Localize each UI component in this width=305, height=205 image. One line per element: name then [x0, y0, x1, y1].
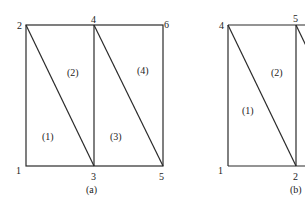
finite-element-mesh-figure: 1 2 3 4 5 6 (1) (2) (3) (4) (a) 1 2 4 5 …	[0, 0, 305, 205]
caption-b: (b)	[290, 184, 302, 196]
node-label-a-3: 3	[91, 171, 96, 182]
mesh-b-diagonal-4-2	[228, 25, 296, 166]
element-label-b-1: (1)	[242, 105, 254, 117]
node-label-b-5: 5	[293, 13, 298, 24]
node-label-a-6: 6	[164, 19, 169, 30]
mesh-b	[228, 25, 305, 166]
mesh-a	[26, 25, 163, 166]
node-label-a-1: 1	[16, 165, 21, 176]
node-label-a-4: 4	[91, 14, 96, 25]
element-label-a-2: (2)	[67, 67, 79, 79]
mesh-a-diagonal-4-5	[94, 25, 163, 166]
element-label-a-1: (1)	[42, 131, 54, 143]
node-label-a-5: 5	[159, 171, 164, 182]
element-label-b-2: (2)	[271, 67, 283, 79]
mesh-b-labels: 1 2 4 5 (1) (2) (b)	[218, 13, 302, 196]
mesh-a-diagonal-2-3	[26, 25, 94, 166]
caption-a: (a)	[86, 184, 97, 196]
element-label-a-4: (4)	[137, 65, 149, 77]
node-label-b-1: 1	[218, 165, 223, 176]
mesh-a-labels: 1 2 3 4 5 6 (1) (2) (3) (4) (a)	[16, 14, 169, 196]
node-label-a-2: 2	[17, 20, 22, 31]
element-label-a-3: (3)	[110, 131, 122, 143]
node-label-b-4: 4	[219, 20, 224, 31]
mesh-b-diagonal-5-next	[296, 25, 305, 54]
node-label-b-2: 2	[293, 171, 298, 182]
